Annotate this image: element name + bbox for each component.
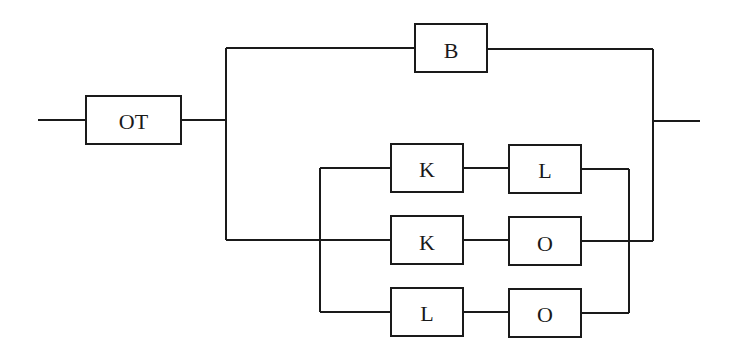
block-ot-label: OT (119, 109, 149, 134)
block-row3-o-label: O (537, 302, 553, 327)
block-row2-o: O (509, 217, 581, 265)
block-row2-k-label: K (419, 230, 435, 255)
reliability-block-diagram: OT B K L K O L O (0, 0, 730, 359)
block-ot: OT (86, 96, 181, 144)
block-row2-k: K (391, 216, 463, 264)
block-row3-l-label: L (420, 301, 433, 326)
block-row2-o-label: O (537, 231, 553, 256)
block-row3-l: L (391, 288, 463, 336)
block-b-label: B (444, 38, 459, 63)
block-row1-k-label: K (419, 157, 435, 182)
block-row1-l: L (509, 145, 581, 193)
block-row1-k: K (391, 144, 463, 192)
block-row3-o: O (509, 289, 581, 337)
block-row1-l-label: L (538, 158, 551, 183)
block-b: B (415, 24, 487, 72)
